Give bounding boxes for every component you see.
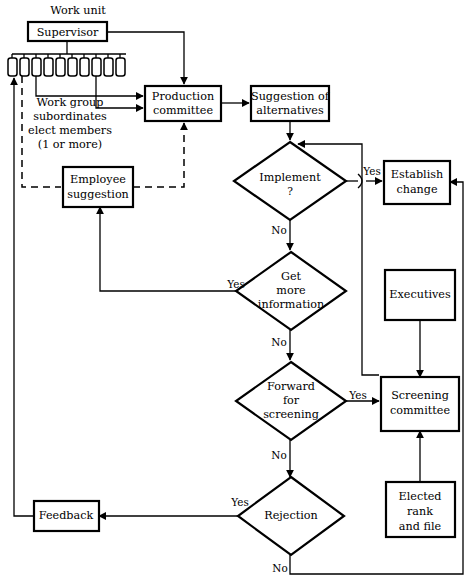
branch-label-get-more-information-no: No bbox=[271, 336, 286, 348]
implement-label-line-1: Implement bbox=[259, 171, 321, 184]
edge-establish-change-down-to-screening bbox=[362, 229, 379, 375]
edge-employee-suggestion-to-production-committee-dashed bbox=[133, 123, 184, 187]
branch-label-implement-no: No bbox=[271, 224, 286, 236]
node-elected-rank-and-file[interactable]: Elected rank and file bbox=[386, 482, 455, 537]
employee-suggestion-label-line-2: suggestion bbox=[67, 188, 129, 201]
branch-label-forward-for-screening-no: No bbox=[271, 449, 286, 461]
node-establish-change[interactable]: Establish change bbox=[384, 161, 450, 204]
node-implement-decision[interactable]: Implement ? bbox=[234, 142, 346, 220]
suggestion-of-alternatives-label-line-2: alternatives bbox=[256, 104, 324, 117]
subordinate-box-6[interactable] bbox=[68, 58, 77, 76]
caption-work-group-line-1: Work group bbox=[37, 96, 104, 109]
get-more-information-label-line-1: Get bbox=[281, 270, 302, 283]
node-screening-committee[interactable]: Screening committee bbox=[381, 377, 459, 431]
subordinate-box-9[interactable] bbox=[104, 58, 113, 76]
suggestion-of-alternatives-label-line-1: Suggestion of bbox=[251, 90, 330, 103]
node-supervisor[interactable]: Supervisor bbox=[28, 22, 107, 41]
elected-rank-and-file-label-line-2: rank bbox=[407, 505, 433, 518]
node-rejection-decision[interactable]: Rejection bbox=[238, 477, 344, 555]
flowchart-diagram: Work unit Supervisor Work group subordin… bbox=[0, 0, 475, 585]
subordinate-box-8[interactable] bbox=[92, 58, 101, 76]
edge-get-more-information-yes-to-employee-suggestion bbox=[100, 207, 236, 291]
subordinate-box-2[interactable] bbox=[20, 58, 29, 76]
subordinate-box-7[interactable] bbox=[80, 58, 89, 76]
caption-work-group-line-2: subordinates bbox=[33, 110, 107, 123]
caption-work-group-line-3: elect members bbox=[28, 124, 112, 137]
production-committee-label-line-2: committee bbox=[153, 104, 213, 117]
elected-rank-and-file-label-line-3: and file bbox=[399, 520, 442, 533]
forward-for-screening-label-line-2: for bbox=[283, 394, 300, 407]
node-suggestion-of-alternatives[interactable]: Suggestion of alternatives bbox=[251, 86, 330, 121]
subordinate-boxes-group bbox=[8, 58, 125, 76]
establish-change-label-line-1: Establish bbox=[391, 168, 443, 181]
subordinate-box-4[interactable] bbox=[44, 58, 53, 76]
forward-for-screening-label-line-3: screening bbox=[263, 408, 319, 421]
branch-label-rejection-no: No bbox=[272, 562, 287, 574]
node-employee-suggestion[interactable]: Employee suggestion bbox=[63, 167, 133, 207]
screening-committee-label-line-1: Screening bbox=[391, 389, 449, 402]
node-forward-for-screening-decision[interactable]: Forward for screening bbox=[236, 362, 346, 440]
subordinate-box-10[interactable] bbox=[116, 58, 125, 76]
get-more-information-label-line-2: more bbox=[276, 284, 306, 297]
node-feedback[interactable]: Feedback bbox=[34, 501, 99, 531]
node-get-more-information-decision[interactable]: Get more information bbox=[236, 252, 346, 330]
caption-work-unit: Work unit bbox=[50, 4, 106, 17]
edge-feedback-to-subordinates bbox=[14, 78, 34, 516]
caption-work-group-line-4: (1 or more) bbox=[38, 138, 102, 151]
feedback-label: Feedback bbox=[39, 509, 94, 522]
branch-label-get-more-information-yes: Yes bbox=[226, 278, 244, 290]
implement-label-line-2: ? bbox=[287, 185, 293, 197]
employee-suggestion-label-line-1: Employee bbox=[70, 173, 126, 186]
branch-label-forward-for-screening-yes: Yes bbox=[348, 389, 366, 401]
get-more-information-label-line-3: information bbox=[258, 298, 324, 311]
edge-subordinates-to-production-committee-upper bbox=[36, 76, 143, 96]
executives-label: Executives bbox=[389, 288, 451, 301]
node-executives[interactable]: Executives bbox=[385, 270, 455, 320]
branch-label-rejection-yes: Yes bbox=[230, 496, 248, 508]
subordinate-box-5[interactable] bbox=[56, 58, 65, 76]
establish-change-label-line-2: change bbox=[396, 183, 438, 196]
flowchart-canvas: Work unit Supervisor Work group subordin… bbox=[0, 0, 475, 585]
rejection-label: Rejection bbox=[264, 509, 317, 522]
production-committee-label-line-1: Production bbox=[152, 90, 214, 103]
subordinate-box-1[interactable] bbox=[8, 58, 17, 76]
supervisor-label: Supervisor bbox=[37, 26, 99, 39]
elected-rank-and-file-label-line-1: Elected bbox=[399, 490, 442, 503]
forward-for-screening-label-line-1: Forward bbox=[267, 380, 315, 393]
node-production-committee[interactable]: Production committee bbox=[145, 86, 221, 121]
screening-committee-label-line-2: committee bbox=[390, 404, 450, 417]
branch-label-implement-yes: Yes bbox=[362, 165, 380, 177]
subordinate-box-3[interactable] bbox=[32, 58, 41, 76]
